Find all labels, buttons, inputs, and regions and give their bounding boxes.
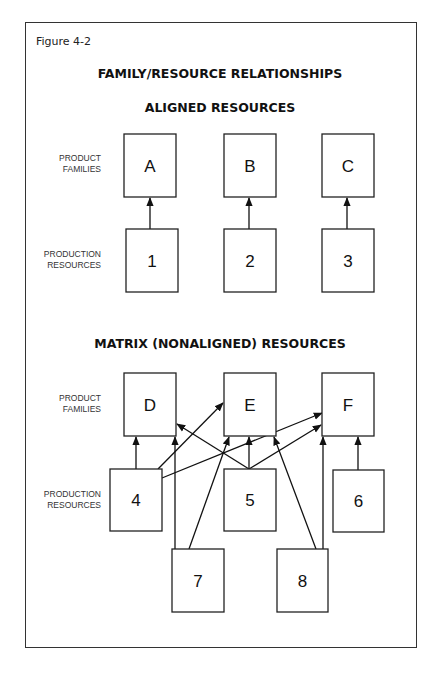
matrix-resources-box-5: 5 xyxy=(224,469,276,531)
svg-text:RESOURCES: RESOURCES xyxy=(47,500,101,510)
box-label: 8 xyxy=(298,572,307,591)
svg-text:PRODUCTION: PRODUCTION xyxy=(44,489,101,499)
box-label: 6 xyxy=(354,492,363,511)
matrix-families-box-d: D xyxy=(124,373,176,436)
matrix-heading: MATRIX (NONALIGNED) RESOURCES xyxy=(94,336,345,351)
box-label: E xyxy=(244,396,255,415)
aligned-links xyxy=(150,198,347,229)
matrix-resources-box-7: 7 xyxy=(172,549,224,612)
box-label: F xyxy=(343,396,353,415)
diagram-canvas: Figure 4-2 FAMILY/RESOURCE RELATIONSHIPS… xyxy=(0,0,441,673)
aligned-families-label: PRODUCT FAMILIES xyxy=(59,153,101,174)
box-label: A xyxy=(144,157,156,176)
matrix-families-box-e: E xyxy=(224,373,276,436)
svg-text:RESOURCES: RESOURCES xyxy=(47,260,101,270)
box-label: 4 xyxy=(131,491,140,510)
aligned-resources-box-3: 3 xyxy=(322,229,374,292)
matrix-arrow-7-to-e xyxy=(189,437,229,549)
svg-text:FAMILIES: FAMILIES xyxy=(63,404,102,414)
aligned-resources-label: PRODUCTION RESOURCES xyxy=(44,249,101,270)
aligned-resources-box-2: 2 xyxy=(224,229,276,292)
box-label: D xyxy=(144,396,156,415)
box-label: B xyxy=(244,157,255,176)
matrix-resources-box-4: 4 xyxy=(110,469,162,531)
page-title: FAMILY/RESOURCE RELATIONSHIPS xyxy=(98,66,343,81)
aligned-families-box-c: C xyxy=(322,134,374,197)
matrix-arrow-8-to-e xyxy=(274,437,316,549)
matrix-resources-label: PRODUCTION RESOURCES xyxy=(44,489,101,510)
matrix-resources-box-6: 6 xyxy=(333,470,384,532)
box-label: 3 xyxy=(343,252,352,271)
aligned-families-box-b: B xyxy=(224,134,276,197)
box-label: 1 xyxy=(147,252,156,271)
figure-label: Figure 4-2 xyxy=(36,35,91,48)
svg-text:PRODUCT: PRODUCT xyxy=(59,393,101,403)
matrix-resources-box-8: 8 xyxy=(277,549,328,612)
box-label: 5 xyxy=(245,491,254,510)
box-label: 2 xyxy=(245,252,254,271)
box-label: 7 xyxy=(193,572,202,591)
svg-text:PRODUCTION: PRODUCTION xyxy=(44,249,101,259)
aligned-families-box-a: A xyxy=(124,134,176,197)
matrix-boxes: DEF45678 xyxy=(110,373,384,612)
aligned-resources-box-1: 1 xyxy=(126,229,178,292)
matrix-families-label: PRODUCT FAMILIES xyxy=(59,393,101,414)
svg-text:FAMILIES: FAMILIES xyxy=(63,164,102,174)
svg-text:PRODUCT: PRODUCT xyxy=(59,153,101,163)
matrix-families-box-f: F xyxy=(322,373,374,436)
aligned-heading: ALIGNED RESOURCES xyxy=(145,100,296,115)
box-label: C xyxy=(342,157,354,176)
